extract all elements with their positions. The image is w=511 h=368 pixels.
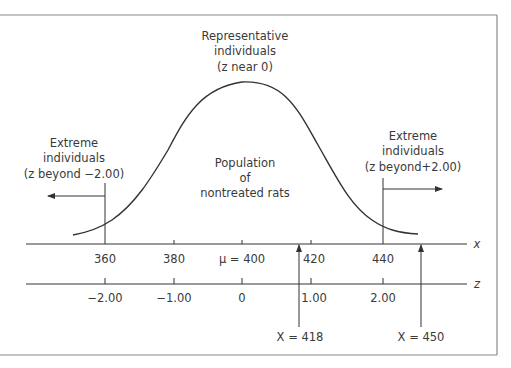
- svg-text:individuals: individuals: [214, 44, 276, 58]
- x-axis-label: x: [473, 237, 481, 251]
- svg-text:Representative: Representative: [202, 29, 289, 43]
- extreme-left-annotation: Extreme individuals (z beyond −2.00): [24, 136, 124, 244]
- z-tick-label: 2.00: [370, 291, 396, 305]
- svg-text:(z beyond+2.00): (z beyond+2.00): [365, 160, 462, 174]
- svg-text:of: of: [239, 171, 251, 185]
- z-tick-label: −1.00: [156, 291, 191, 305]
- svg-text:individuals: individuals: [382, 144, 444, 158]
- svg-text:(z beyond −2.00): (z beyond −2.00): [24, 167, 124, 181]
- svg-text:X = 418: X = 418: [277, 330, 324, 344]
- x-axis: x 360 380 μ = 400 420 440: [26, 237, 481, 266]
- z-tick-label: 0: [238, 291, 245, 305]
- svg-text:Extreme: Extreme: [50, 136, 98, 150]
- representative-annotation: Representative individuals (z near 0): [202, 29, 289, 74]
- svg-text:X = 450: X = 450: [398, 330, 445, 344]
- svg-text:nontreated rats: nontreated rats: [200, 186, 290, 200]
- svg-text:individuals: individuals: [43, 151, 105, 165]
- x-tick-label: 440: [372, 252, 394, 266]
- z-tick-label: −2.00: [87, 291, 122, 305]
- z-tick-label: 1.00: [301, 291, 327, 305]
- z-axis: z −2.00 −1.00 0 1.00 2.00: [26, 277, 481, 305]
- x-tick-label: 360: [94, 252, 116, 266]
- svg-text:Extreme: Extreme: [389, 129, 437, 143]
- svg-text:(z near 0): (z near 0): [217, 60, 273, 74]
- x-tick-label: 420: [303, 252, 325, 266]
- x-tick-label: 380: [163, 252, 185, 266]
- z-axis-label: z: [473, 277, 481, 291]
- svg-text:Population: Population: [215, 156, 275, 170]
- x-tick-label-mean: μ = 400: [219, 252, 265, 266]
- normal-distribution-diagram: Representative individuals (z near 0) Po…: [0, 0, 511, 368]
- marker-x-450: X = 450: [398, 245, 445, 344]
- extreme-right-annotation: Extreme individuals (z beyond+2.00): [365, 129, 462, 244]
- population-label: Population of nontreated rats: [200, 156, 290, 200]
